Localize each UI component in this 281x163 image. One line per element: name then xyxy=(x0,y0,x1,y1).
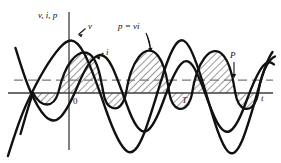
power-label-p-equals-vi: p = vi xyxy=(117,21,140,31)
figure-canvas: v, i, p t 0 T v i p = vi P xyxy=(0,0,281,163)
voltage-label-v: v xyxy=(88,21,92,31)
x-axis-label: t xyxy=(261,93,264,103)
average-power-label-P: P xyxy=(229,50,236,60)
origin-label: 0 xyxy=(73,96,78,106)
y-axis-label: v, i, p xyxy=(38,10,58,20)
current-label-i: i xyxy=(106,47,109,57)
waveform-svg: v, i, p t 0 T v i p = vi P xyxy=(0,0,281,163)
